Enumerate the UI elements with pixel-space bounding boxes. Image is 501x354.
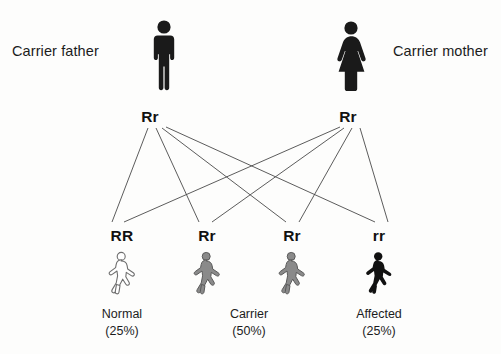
outcome-normal-name: Normal [62,306,182,323]
inheritance-diagram: Carrier father Rr Carrier mother Rr RR R… [0,0,501,354]
father-label: Carrier father [12,43,99,59]
connector-father-to-child-3 [162,128,286,222]
child-figure-outline-icon [107,252,137,296]
child-2-genotype: Rr [177,227,237,245]
connector-mother-to-child-3 [299,128,352,222]
father-genotype: Rr [130,108,170,126]
mother-genotype: Rr [328,108,368,126]
connector-mother-to-child-4 [360,128,388,222]
connector-father-to-child-4 [166,127,375,222]
outcome-carrier-name: Carrier [189,306,309,323]
child-figure-gray-icon [277,252,307,296]
child-3-genotype: Rr [262,227,322,245]
outcome-normal-percent: (25%) [62,323,182,340]
outcome-normal: Normal (25%) [62,306,182,340]
child-1-genotype: RR [92,227,152,245]
outcome-carrier: Carrier (50%) [189,306,309,340]
male-figure-icon [148,20,180,92]
connector-father-to-child-2 [156,128,199,222]
connector-mother-to-child-1 [124,127,340,222]
outcome-affected-percent: (25%) [319,323,439,340]
female-figure-icon [331,21,371,92]
outcome-affected: Affected (25%) [319,306,439,340]
mother-label: Carrier mother [393,43,488,59]
outcome-affected-name: Affected [319,306,439,323]
child-4-genotype: rr [349,227,409,245]
connector-father-to-child-1 [112,128,148,222]
connector-mother-to-child-2 [212,128,344,222]
child-figure-black-icon [364,252,394,296]
child-figure-gray-icon [192,252,222,296]
outcome-carrier-percent: (50%) [189,323,309,340]
